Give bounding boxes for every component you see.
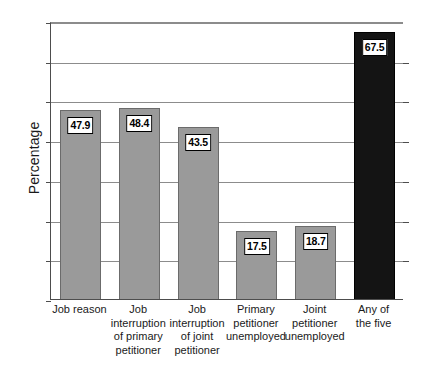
y-tick-mark-right xyxy=(403,261,409,262)
bar-chart: Percentage 47.948.443.517.518.767.5 0102… xyxy=(0,0,421,374)
x-category-label-line: the five xyxy=(338,317,409,331)
bar[interactable]: 67.5 xyxy=(354,32,395,300)
bar[interactable]: 18.7 xyxy=(295,226,336,300)
bar[interactable]: 48.4 xyxy=(119,108,160,300)
bar-slot: 18.7 xyxy=(295,23,336,300)
x-category-label-line: petitioner xyxy=(162,344,233,358)
y-tick-mark-right xyxy=(403,63,409,64)
bar[interactable]: 47.9 xyxy=(60,110,101,300)
bar-value-label: 18.7 xyxy=(303,233,329,250)
x-category-label-line: unemployed xyxy=(279,330,350,344)
y-tick-mark-right xyxy=(403,182,409,183)
bar-slot: 43.5 xyxy=(178,23,219,300)
bar-value-label: 43.5 xyxy=(185,134,211,151)
x-category-label-line: Any of xyxy=(338,303,409,317)
y-tick-mark-right xyxy=(403,222,409,223)
bar-slot: 17.5 xyxy=(236,23,277,300)
bar-slot: 48.4 xyxy=(119,23,160,300)
bar-value-label: 48.4 xyxy=(126,115,152,132)
x-axis-category-labels: Job reasonJobinterruptionof primarypetit… xyxy=(50,303,403,371)
bars-layer: 47.948.443.517.518.767.5 xyxy=(51,23,403,300)
y-tick-mark-right xyxy=(403,102,409,103)
bar-value-label: 17.5 xyxy=(244,238,270,255)
bar-value-label: 47.9 xyxy=(68,117,94,134)
x-axis-line xyxy=(51,299,403,300)
y-tick-mark xyxy=(46,301,51,302)
y-tick-mark-right xyxy=(403,142,409,143)
bar-value-label: 67.5 xyxy=(362,39,388,56)
bar-slot: 47.9 xyxy=(60,23,101,300)
x-category-label: Any ofthe five xyxy=(338,303,409,330)
bar-slot: 67.5 xyxy=(354,23,395,300)
plot-area: 47.948.443.517.518.767.5 xyxy=(50,22,403,300)
bar[interactable]: 17.5 xyxy=(236,231,277,301)
bar[interactable]: 43.5 xyxy=(178,127,219,300)
y-axis-title: Percentage xyxy=(26,78,42,238)
